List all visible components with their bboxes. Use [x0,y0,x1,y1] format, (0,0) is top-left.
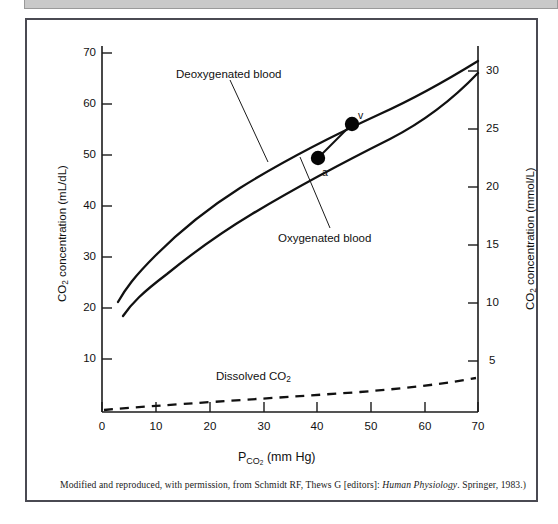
y-right-title-main: CO [524,293,536,310]
caption-prefix: Modified and reproduced, with permission… [60,479,382,490]
y-right-title-rest: concentration (mmol/L) [524,167,536,288]
annotation-deoxygenated-blood: Deoxygenated blood [176,68,282,80]
y-left-tick-30: 30 [72,250,96,262]
x-tick-50: 50 [363,420,379,432]
y-right-tick-15: 15 [486,238,499,250]
x-tick-10: 10 [148,420,164,432]
y-right-tick-20: 20 [486,180,499,192]
y-right-tick-30: 30 [486,64,499,76]
data-point-label-a: a [322,166,328,178]
x-title-sub: CO2 [246,456,263,466]
y-axis-left-title: CO2 concentration (mL/dL) [56,165,68,302]
y-left-tick-40: 40 [72,199,96,211]
y-left-title-main: CO [56,285,68,302]
figure-caption: Modified and reproduced, with permission… [60,479,530,490]
x-title-rest: (mm Hg) [263,450,315,464]
y-left-tick-20: 20 [72,301,96,313]
y-left-title-rest: concentration (mL/dL) [56,165,68,280]
dissolved-co2-sub: 2 [286,375,291,384]
dissolved-co2-text: Dissolved CO [216,370,286,382]
y-left-tick-70: 70 [72,46,96,58]
y-left-tick-60: 60 [72,97,96,109]
x-title-sub-co: CO [246,456,260,466]
x-tick-70: 70 [470,420,486,432]
x-tick-0: 0 [94,420,110,432]
x-tick-60: 60 [417,420,433,432]
y-right-tick-10: 10 [486,296,499,308]
y-left-tick-10: 10 [72,352,96,364]
top-header-band [24,0,558,9]
caption-suffix: . Springer, 1983.) [457,479,526,490]
x-tick-20: 20 [202,420,218,432]
y-right-tick-25: 25 [486,122,499,134]
y-left-tick-50: 50 [72,148,96,160]
x-axis-title: PCO2 (mm Hg) [238,450,316,464]
y-right-title-sub: 2 [529,288,538,293]
x-title-sub-2: 2 [260,459,264,466]
annotation-oxygenated-blood: Oxygenated blood [278,232,371,244]
y-right-tick-5: 5 [489,354,495,366]
x-tick-40: 40 [309,420,325,432]
data-point-label-v: v [358,109,363,121]
y-left-title-sub: 2 [61,280,70,285]
caption-italic-title: Human Physiology [382,479,457,490]
x-tick-30: 30 [256,420,272,432]
y-axis-right-title: CO2 concentration (mmol/L) [524,167,536,310]
annotation-dissolved-co2: Dissolved CO2 [216,370,291,382]
